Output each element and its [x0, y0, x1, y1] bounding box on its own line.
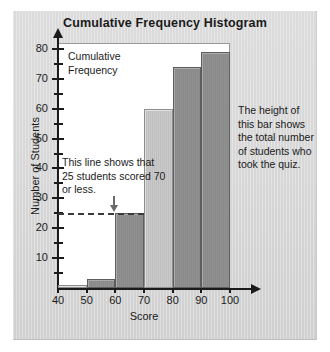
- y-tick-label: 80: [14, 42, 48, 54]
- histogram-bar: [115, 213, 144, 288]
- cumulative-frequency-histogram-figure: Cumulative Frequency Histogram 102030405…: [0, 0, 330, 352]
- legend-line-2: Frequency: [68, 64, 118, 76]
- y-tick-major: [52, 197, 64, 199]
- histogram-bar: [173, 67, 202, 288]
- y-tick-minor: [54, 272, 63, 274]
- x-tick: [114, 288, 116, 293]
- x-tick: [86, 288, 88, 293]
- y-tick-major: [52, 138, 64, 140]
- x-tick-label: 70: [129, 294, 159, 306]
- histogram-bar: [201, 52, 230, 288]
- x-tick-label: 40: [43, 294, 73, 306]
- x-tick: [57, 288, 59, 293]
- y-tick-minor: [54, 153, 63, 155]
- y-tick-minor: [54, 63, 63, 65]
- histogram-bar: [144, 109, 173, 288]
- x-axis-arrow-icon: [251, 284, 261, 294]
- y-axis-arrow-icon: [53, 28, 63, 38]
- x-tick: [172, 288, 174, 293]
- y-tick-major: [52, 227, 64, 229]
- histogram-bar: [58, 285, 87, 288]
- annotation-cumulative-frequency: Cumulative Frequency: [68, 50, 158, 77]
- y-tick-minor: [54, 242, 63, 244]
- y-tick-minor: [54, 93, 63, 95]
- x-tick-label: 60: [100, 294, 130, 306]
- y-tick-label: 70: [14, 72, 48, 84]
- annotation-total-students-note: The height of this bar shows the total n…: [238, 104, 318, 172]
- y-tick-minor: [54, 123, 63, 125]
- y-tick-major: [52, 48, 64, 50]
- annotation-reference-line-note: This line shows that 25 students scored …: [62, 156, 166, 197]
- y-tick-major: [52, 108, 64, 110]
- x-tick-label: 80: [158, 294, 188, 306]
- x-tick-label: 90: [186, 294, 216, 306]
- reference-line: [58, 213, 144, 215]
- x-tick: [229, 288, 231, 293]
- y-axis-label: Number of Students: [29, 86, 41, 246]
- x-tick: [200, 288, 202, 293]
- x-axis-label: Score: [58, 310, 230, 322]
- y-tick-label: 10: [14, 251, 48, 263]
- y-axis-line: [57, 36, 59, 290]
- x-tick-label: 100: [215, 294, 245, 306]
- reference-line-arrow-head-icon: [110, 205, 118, 212]
- x-tick: [143, 288, 145, 293]
- x-tick-label: 50: [72, 294, 102, 306]
- y-tick-major: [52, 257, 64, 259]
- y-tick-major: [52, 78, 64, 80]
- legend-line-1: Cumulative: [68, 50, 121, 62]
- histogram-bar: [87, 279, 116, 288]
